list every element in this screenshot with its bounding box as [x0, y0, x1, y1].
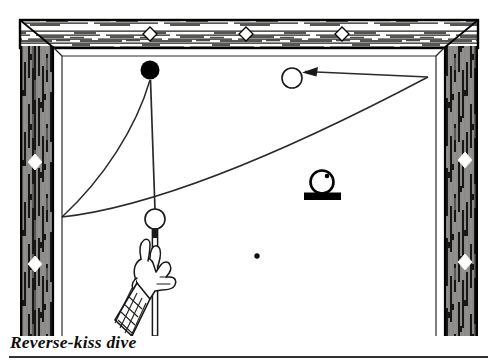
caption-title: Reverse-kiss dive [10, 332, 136, 353]
object-ball [141, 61, 160, 80]
right-rail [444, 46, 478, 336]
billiards-diagram [0, 0, 497, 336]
figure-caption: Reverse-kiss dive [0, 332, 497, 362]
top-rail [20, 20, 478, 48]
cue-ball [145, 209, 165, 229]
english-base-bar [304, 193, 341, 201]
cue-tip [152, 229, 157, 238]
caption-divider [9, 356, 488, 358]
table-spot [254, 253, 259, 258]
tip-contact-dot [325, 174, 330, 179]
figure-page: Reverse-kiss dive [0, 0, 497, 362]
playing-surface [20, 20, 478, 336]
left-rail [20, 46, 54, 336]
target-ball [282, 68, 302, 88]
